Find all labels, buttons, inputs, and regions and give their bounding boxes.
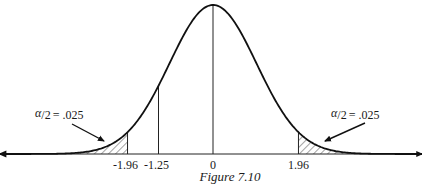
left-annotation-pointer [72,124,104,141]
normal-curve [0,5,422,154]
tick-label: -1.25 [144,158,169,172]
right-annotation-text: α/2= .025 [331,106,379,122]
right-tail-annotation: α/2= .025 [325,106,379,141]
left-tail-annotation: α/2= .025 [35,106,104,141]
tick-label: -1.96 [113,158,138,172]
figure-caption: Figure 7.10 [199,169,261,184]
vertical-lines [128,5,299,154]
tick-label: 1.96 [288,158,309,172]
normal-distribution-figure: -1.96-1.2501.96 α/2= .025 α/2= .025 Figu… [0,0,422,186]
right-annotation-pointer [325,123,365,141]
left-annotation-text: α/2= .025 [35,106,83,122]
